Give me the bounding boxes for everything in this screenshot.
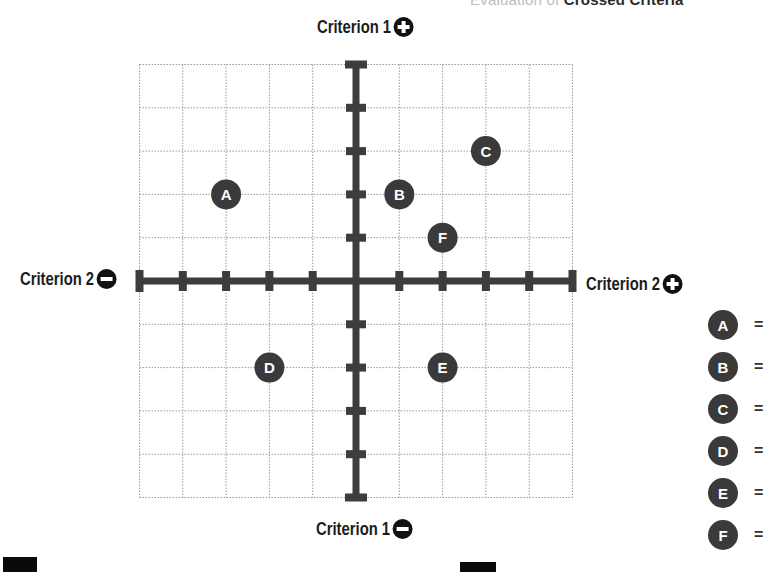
marker-badge: C xyxy=(708,394,738,424)
legend-item-d: D= xyxy=(708,430,763,472)
marker-badge: B xyxy=(708,352,738,382)
axis-label-bottom: Criterion 1 xyxy=(316,518,410,540)
equals-sign: = xyxy=(754,526,763,544)
equals-sign: = xyxy=(754,358,763,376)
axes xyxy=(136,61,577,502)
marker-badge: D xyxy=(708,436,738,466)
legend-item-a: A= xyxy=(708,304,763,346)
point-f: F xyxy=(428,223,458,253)
equals-sign: = xyxy=(754,484,763,502)
crop-mark-left xyxy=(3,557,37,572)
svg-text:D: D xyxy=(264,359,275,376)
svg-text:B: B xyxy=(394,186,405,203)
point-c: C xyxy=(471,136,501,166)
svg-text:E: E xyxy=(438,359,448,376)
point-d: D xyxy=(254,353,284,383)
axis-right-text: Criterion 2 xyxy=(586,273,660,295)
marker-badge: E xyxy=(708,478,738,508)
crop-mark-right xyxy=(460,562,496,572)
minus-circle-icon xyxy=(97,269,117,289)
legend-item-e: E= xyxy=(708,472,763,514)
legend-item-f: F= xyxy=(708,514,763,556)
equals-sign: = xyxy=(754,400,763,418)
marker-badge: F xyxy=(708,520,738,550)
legend-item-c: C= xyxy=(708,388,763,430)
svg-text:A: A xyxy=(221,186,232,203)
equals-sign: = xyxy=(754,316,763,334)
axis-left-text: Criterion 2 xyxy=(20,268,94,290)
marker-badge: A xyxy=(708,310,738,340)
axis-label-right: Criterion 2 xyxy=(586,273,680,295)
svg-text:C: C xyxy=(480,143,491,160)
minus-circle-icon xyxy=(393,519,413,539)
point-b: B xyxy=(384,179,414,209)
legend-item-b: B= xyxy=(708,346,763,388)
axis-label-left: Criterion 2 xyxy=(20,268,114,290)
axis-bottom-text: Criterion 1 xyxy=(316,518,390,540)
point-a: A xyxy=(211,179,241,209)
equals-sign: = xyxy=(754,442,763,460)
plus-circle-icon xyxy=(663,274,683,294)
legend: A= B= C= D= E= F= xyxy=(708,304,763,556)
axis-label-top: Criterion 1 xyxy=(317,16,411,38)
svg-text:F: F xyxy=(438,229,447,246)
plus-circle-icon xyxy=(394,17,414,37)
point-e: E xyxy=(428,353,458,383)
axis-top-text: Criterion 1 xyxy=(317,16,391,38)
